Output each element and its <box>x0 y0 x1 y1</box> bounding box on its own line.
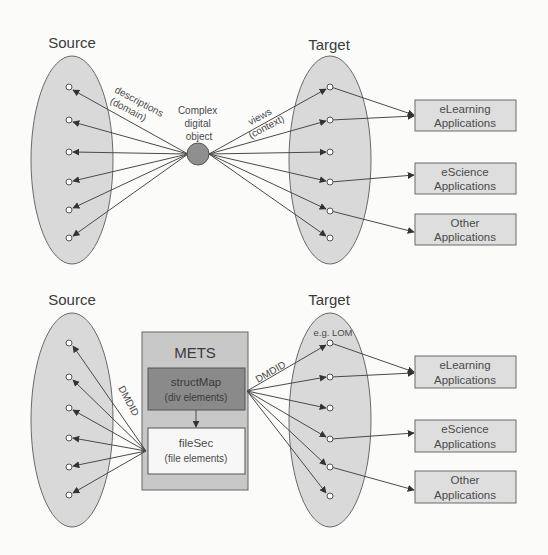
top-panel: Source Target <box>31 34 516 264</box>
mets-title: METS <box>174 344 216 361</box>
bottom-source-label: Source <box>48 291 96 308</box>
top-app-escience: eScienceApplications <box>415 163 516 194</box>
bottom-target-label: Target <box>308 291 351 308</box>
bottom-app-other: OtherApplications <box>415 471 516 503</box>
eg-lom-annotation: e.g. LOM <box>313 327 352 338</box>
bottom-panel: Source Target METS structMap(div element… <box>31 291 516 527</box>
top-app-other: OtherApplications <box>415 214 516 245</box>
top-target-label: Target <box>308 36 351 53</box>
bottom-app-escience: eScienceApplications <box>415 420 516 452</box>
complex-digital-object-node <box>187 143 209 165</box>
mets-mapping-diagram: Source Target <box>0 0 548 555</box>
views-context-label: views (context) <box>241 102 286 141</box>
complex-digital-object-label: Complex digital object <box>178 105 220 142</box>
right-dmdid-label: DMDID <box>254 359 288 385</box>
bottom-app-elearning: eLearningApplications <box>415 356 516 388</box>
descriptions-domain-label: descriptions (domain) <box>107 84 167 131</box>
top-app-elearning: eLearningApplications <box>415 100 516 131</box>
top-source-label: Source <box>48 34 96 51</box>
file-sec-box: fileSec(file elements) <box>148 428 245 474</box>
struct-map-box: structMap(div elements) <box>148 368 245 410</box>
